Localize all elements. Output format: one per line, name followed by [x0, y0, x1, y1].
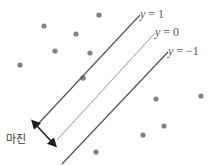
data-point: [73, 31, 78, 36]
margin-label: 마진: [6, 134, 26, 145]
data-point: [96, 12, 101, 17]
margin-arrow: [37, 126, 51, 141]
diagram-canvas: [0, 0, 224, 165]
upper-boundary-line: [38, 15, 140, 124]
data-point: [140, 132, 145, 137]
decision-boundary-line: [57, 33, 155, 140]
boundary-lines: [38, 15, 168, 164]
label-y-equals-1: y = 1: [140, 8, 164, 20]
svm-margin-figure: y = 1 y = 0 y = −1 마진: [0, 0, 224, 165]
data-point: [161, 123, 166, 128]
data-point: [17, 62, 22, 67]
data-point: [52, 48, 57, 53]
data-point: [93, 149, 98, 154]
label-y-equals-minus-1: y = −1: [168, 45, 199, 57]
label-y-equals-0-rel: = 0: [160, 25, 179, 39]
data-point: [198, 93, 203, 98]
label-y-equals-minus-1-rel: = −1: [173, 44, 199, 58]
data-point: [153, 96, 158, 101]
data-point: [87, 50, 92, 55]
label-y-equals-0: y = 0: [155, 26, 179, 38]
data-point: [41, 23, 46, 28]
lower-boundary-line: [62, 52, 168, 164]
label-y-equals-1-rel: = 1: [145, 7, 164, 21]
